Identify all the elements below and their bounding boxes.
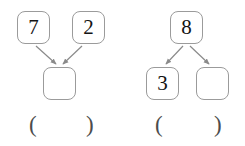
left-sum-box[interactable] [43,67,76,100]
right-part-1-box[interactable]: 3 [146,67,179,100]
left-answer-close-paren: ) [86,113,94,136]
arrow-right-whole-to-part2 [190,46,209,64]
left-addend-2-box[interactable]: 2 [72,11,105,44]
left-answer-open-paren: ( [29,113,37,136]
right-part-2-box[interactable] [196,67,229,100]
left-addend-2-value: 2 [83,17,94,38]
right-whole-value: 8 [181,17,192,38]
arrow-left-addend1-to-sum [36,46,56,64]
right-whole-box[interactable]: 8 [170,11,203,44]
left-addend-1-value: 7 [28,17,39,38]
left-addend-1-box[interactable]: 7 [17,11,50,44]
arrow-left-addend2-to-sum [63,46,82,64]
right-answer-close-paren: ) [214,113,222,136]
right-answer-open-paren: ( [155,113,163,136]
right-part-1-value: 3 [157,73,168,94]
number-bond-worksheet: 7 2 ( ) 8 3 ( ) [0,0,245,146]
arrow-right-whole-to-part1 [166,46,183,64]
